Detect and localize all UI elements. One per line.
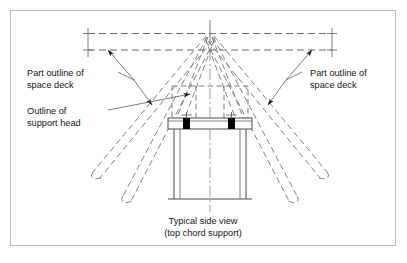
label-left-deck: Part outline of space deck — [27, 68, 84, 90]
leader-left-deck-stem — [118, 72, 134, 80]
bolt-right — [228, 118, 235, 129]
figure-caption: Typical side view (top chord support) — [164, 216, 242, 238]
label-left-deck-line1: Part outline of — [27, 68, 84, 78]
technical-drawing: Part outline of space deck Part outline … — [0, 0, 407, 263]
label-right-deck: Part outline of space deck — [310, 68, 367, 90]
label-support-head: Outline of support head — [27, 106, 81, 128]
caption-line-1: Typical side view — [169, 216, 238, 226]
leader-right-deck-a — [286, 50, 312, 80]
leader-right-deck-b — [268, 80, 286, 105]
leader-right-deck-stem — [286, 72, 302, 80]
bolt-left — [183, 118, 190, 129]
label-right-deck-line2: space deck — [310, 80, 357, 90]
label-right-deck-line1: Part outline of — [310, 68, 367, 78]
leader-left-deck-a — [108, 50, 134, 80]
label-support-head-line1: Outline of — [27, 106, 67, 116]
leader-support-head-a — [160, 94, 190, 100]
label-left-deck-line2: space deck — [27, 80, 74, 90]
caption-line-2: (top chord support) — [164, 228, 242, 238]
diagram-canvas: Part outline of space deck Part outline … — [0, 0, 407, 263]
leader-left-deck-b — [134, 80, 152, 105]
leader-support-head-stem — [108, 100, 160, 110]
label-support-head-line2: support head — [27, 118, 81, 128]
